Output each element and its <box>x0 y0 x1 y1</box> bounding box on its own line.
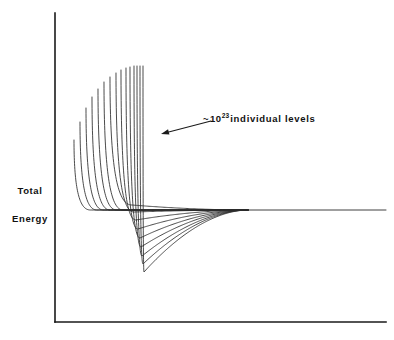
annotation-tail: individual levels <box>230 113 315 124</box>
energy-curve <box>98 89 248 210</box>
energy-curve <box>140 66 248 264</box>
annotation-label: ~1023individual levels <box>203 112 316 124</box>
energy-curve <box>116 73 248 212</box>
annotation-tilde: ~ <box>203 113 209 124</box>
energy-curve <box>126 68 248 229</box>
y-axis-label-line-1: Total <box>8 184 52 198</box>
plot-canvas <box>0 0 394 340</box>
annotation-arrow-head <box>161 129 169 134</box>
annotation-base: 10 <box>210 113 222 124</box>
energy-curve <box>137 66 248 256</box>
figure-root: Total Energy ~1023individual levels <box>0 0 394 340</box>
energy-curve <box>134 66 248 247</box>
annotation-exponent: 23 <box>222 112 230 119</box>
energy-curve <box>143 66 248 272</box>
energy-curves-group <box>74 66 248 272</box>
y-axis-label-line-2: Energy <box>8 212 52 226</box>
y-axis-label: Total Energy <box>8 170 52 240</box>
